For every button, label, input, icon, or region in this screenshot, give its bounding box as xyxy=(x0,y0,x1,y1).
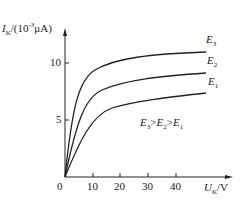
curve-e2 xyxy=(65,73,206,177)
x-tick-40: 40 xyxy=(170,180,181,192)
y-axis-label: IK/(10-3μA) xyxy=(2,21,52,37)
e2-symbol: E xyxy=(207,54,214,66)
label-e2: E2 xyxy=(207,54,217,69)
y-axis-arrow-icon xyxy=(63,28,67,36)
y-tick-10: 10 xyxy=(50,56,61,68)
relation-annotation: E3>E2>E1 xyxy=(140,116,183,131)
x-tick-0: 0 xyxy=(57,180,63,192)
x-axis-arrow-icon xyxy=(225,175,233,179)
y-ticks xyxy=(65,63,69,120)
x-tick-10: 10 xyxy=(87,180,98,192)
x-axis-unit: /V xyxy=(217,181,228,193)
x-axis-symbol: U xyxy=(204,181,212,193)
x-axis-label: UK/V xyxy=(204,181,228,196)
e1-symbol: E xyxy=(208,75,215,87)
e1-subscript: 1 xyxy=(215,82,219,90)
label-e1: E1 xyxy=(208,75,218,90)
e2-subscript: 2 xyxy=(214,61,218,69)
e3-subscript: 3 xyxy=(213,40,217,48)
e3-symbol: E xyxy=(206,33,213,45)
x-tick-20: 20 xyxy=(114,180,125,192)
y-tick-5: 5 xyxy=(56,113,62,125)
curve-e3 xyxy=(65,52,206,177)
label-e3: E3 xyxy=(206,33,216,48)
rel-e1: E xyxy=(173,116,180,128)
y-axis-unit-pre: /(10 xyxy=(11,22,29,34)
x-ticks xyxy=(93,173,176,177)
x-tick-30: 30 xyxy=(142,180,153,192)
rel-sub-1: 1 xyxy=(180,123,184,131)
y-axis-unit: μA) xyxy=(34,22,52,34)
rel-e3: E xyxy=(140,116,147,128)
